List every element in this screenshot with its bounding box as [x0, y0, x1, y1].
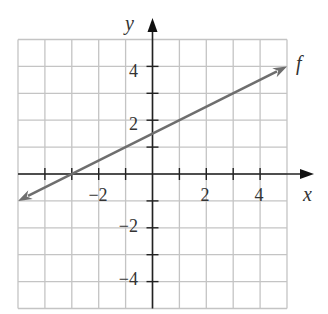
- x-tick-label-2: 2: [201, 185, 210, 205]
- function-label-f: f: [296, 52, 304, 75]
- x-tick-label-4: 4: [255, 185, 264, 205]
- x-tick-label-neg2: −2: [88, 185, 107, 205]
- y-axis-label: y: [123, 12, 134, 35]
- y-tick-label-4: 4: [129, 61, 138, 81]
- x-axis-label: x: [302, 183, 312, 205]
- y-tick-label-2: 2: [129, 114, 138, 134]
- y-tick-label-neg2: −2: [119, 216, 138, 236]
- coordinate-plane: −2 2 4 4 2 −2 −4 x y f: [0, 0, 328, 314]
- axes: [18, 18, 314, 309]
- y-tick-label-neg4: −4: [119, 269, 138, 289]
